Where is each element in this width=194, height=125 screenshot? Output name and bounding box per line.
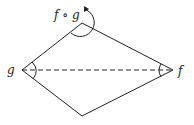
label-f: f <box>177 64 185 78</box>
label-composition: f ∘ g <box>53 8 80 22</box>
label-g: g <box>7 63 15 77</box>
rhombus-diagram: f ∘ g g f <box>0 0 194 125</box>
